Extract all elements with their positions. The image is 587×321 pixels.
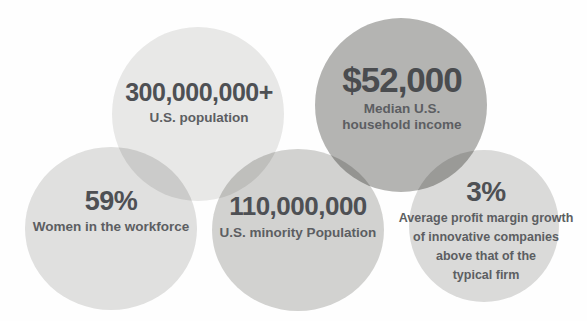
bubble-label-population: 300,000,000+ U.S. population — [104, 78, 294, 125]
bubble-label-profit: 3% Average profit margin growth of innov… — [398, 176, 574, 283]
bubble-value-population: 300,000,000+ — [104, 78, 294, 107]
bubble-label-layer: 300,000,000+ U.S. population $52,000 Med… — [0, 0, 587, 321]
bubble-caption-income-line1: Median U.S. — [312, 101, 492, 116]
bubble-value-profit: 3% — [398, 176, 574, 208]
bubble-caption-profit-line1: Average profit margin growth — [398, 210, 574, 227]
bubble-caption-population: U.S. population — [104, 110, 294, 125]
bubble-value-income: $52,000 — [312, 60, 492, 100]
bubble-caption-income-line2: household income — [312, 117, 492, 132]
bubble-label-minority: 110,000,000 U.S. minority Population — [203, 192, 393, 240]
bubble-caption-women: Women in the workforce — [13, 219, 209, 234]
statistics-bubble-infographic: 300,000,000+ U.S. population $52,000 Med… — [0, 0, 587, 321]
bubble-value-women: 59% — [13, 186, 209, 217]
bubble-caption-minority: U.S. minority Population — [203, 225, 393, 240]
bubble-value-minority: 110,000,000 — [203, 192, 393, 222]
bubble-caption-profit-line2: of innovative companies — [398, 229, 574, 246]
bubble-caption-profit-line3: above that of the — [398, 248, 574, 265]
bubble-label-income: $52,000 Median U.S. household income — [312, 60, 492, 133]
bubble-label-women: 59% Women in the workforce — [13, 186, 209, 234]
bubble-caption-profit-line4: typical firm — [398, 267, 574, 284]
